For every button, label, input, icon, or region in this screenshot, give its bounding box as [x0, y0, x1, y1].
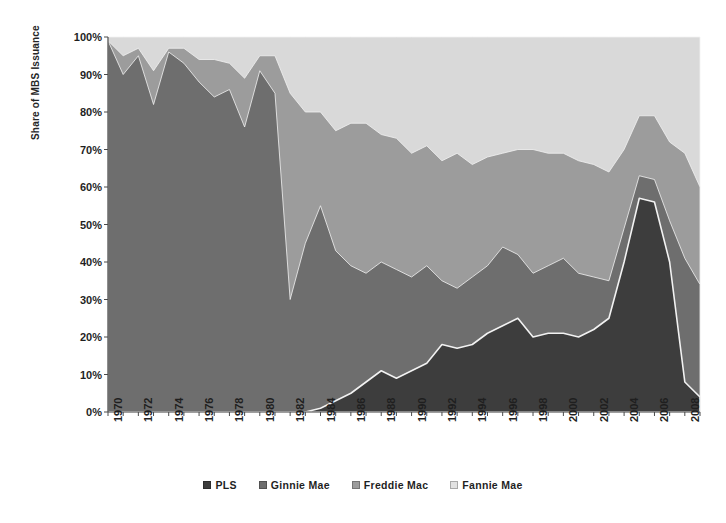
y-axis-tick-label: 100%	[58, 31, 102, 43]
y-axis-tick-label: 40%	[58, 256, 102, 268]
legend-swatch-icon	[203, 481, 211, 489]
y-axis-tick-label: 0%	[58, 406, 102, 418]
y-axis-tick-label: 20%	[58, 331, 102, 343]
y-axis-tick-label: 70%	[58, 144, 102, 156]
plot-area	[0, 0, 726, 523]
legend-item-fannie-mae[interactable]: Fannie Mae	[450, 479, 522, 491]
y-axis-tick-label: 50%	[58, 219, 102, 231]
legend-item-freddie-mac[interactable]: Freddie Mac	[352, 479, 429, 491]
y-axis-tick-labels: 0%10%20%30%40%50%60%70%80%90%100%	[54, 0, 102, 523]
legend-label: Ginnie Mae	[271, 479, 330, 491]
legend-label: Fannie Mae	[462, 479, 522, 491]
stacked-area-series	[108, 37, 700, 412]
chart-legend: PLSGinnie MaeFreddie MacFannie Mae	[0, 479, 726, 491]
y-axis-tick-label: 90%	[58, 69, 102, 81]
y-axis-tick-label: 60%	[58, 181, 102, 193]
legend-swatch-icon	[352, 481, 360, 489]
legend-label: Freddie Mac	[364, 479, 429, 491]
legend-swatch-icon	[259, 481, 267, 489]
legend-label: PLS	[215, 479, 236, 491]
legend-swatch-icon	[450, 481, 458, 489]
y-axis-title: Share of MBS Issuance	[30, 0, 41, 140]
y-axis-tick-label: 80%	[58, 106, 102, 118]
mbs-issuance-share-chart: Share of MBS Issuance 0%10%20%30%40%50%6…	[0, 0, 726, 523]
y-axis-tick-label: 10%	[58, 369, 102, 381]
y-axis-tick-label: 30%	[58, 294, 102, 306]
legend-item-pls[interactable]: PLS	[203, 479, 236, 491]
legend-item-ginnie-mae[interactable]: Ginnie Mae	[259, 479, 330, 491]
